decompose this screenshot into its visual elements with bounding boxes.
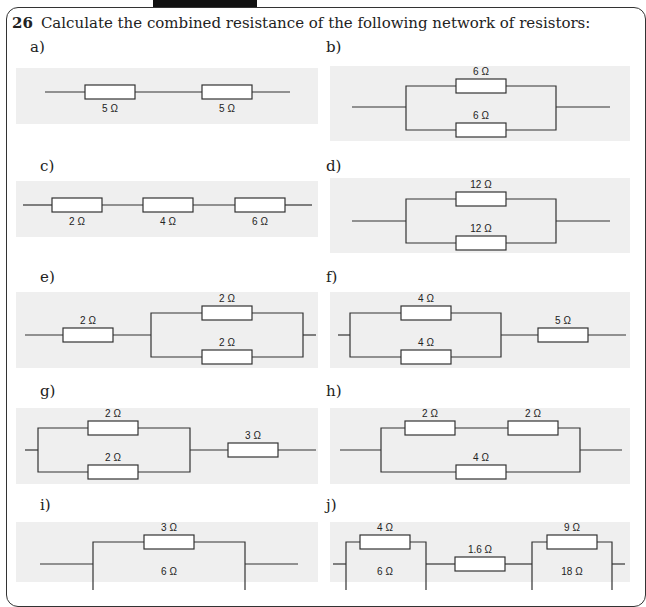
resistor-label: 6 Ω — [161, 566, 177, 577]
resistor-label: 12 Ω — [470, 179, 492, 190]
resistor-label: 3 Ω — [245, 430, 261, 441]
resistor-label: 2 Ω — [422, 408, 438, 419]
resistor — [538, 328, 588, 342]
circuit-e: 2 Ω 2 Ω 2 Ω — [25, 293, 316, 364]
resistor — [456, 236, 506, 250]
resistor — [456, 123, 506, 137]
resistor — [508, 421, 558, 435]
resistor-label: 4 Ω — [418, 337, 434, 348]
resistor-label: 2 Ω — [69, 216, 85, 227]
resistor — [547, 535, 597, 549]
resistor-label: 2 Ω — [525, 408, 541, 419]
resistor — [202, 306, 252, 320]
circuit-h: 2 Ω 2 Ω 4 Ω — [340, 408, 622, 479]
resistor-label: 4 Ω — [377, 522, 393, 533]
circuit-f: 4 Ω 4 Ω 5 Ω — [338, 293, 626, 364]
circuit-a: 5 Ω 5 Ω — [45, 85, 290, 114]
resistor — [88, 465, 138, 479]
resistor-label: 18 Ω — [561, 566, 583, 577]
resistor-label: 4 Ω — [473, 452, 489, 463]
resistor-label: 6 Ω — [377, 566, 393, 577]
resistor-label: 5 Ω — [102, 103, 118, 114]
resistor-label: 5 Ω — [555, 315, 571, 326]
resistor — [228, 443, 278, 457]
circuit-d: 12 Ω 12 Ω — [352, 179, 610, 250]
resistor-label: 1.6 Ω — [468, 544, 493, 555]
resistor — [202, 350, 252, 364]
resistor-label: 6 Ω — [252, 216, 268, 227]
resistor-label: 5 Ω — [219, 103, 235, 114]
resistor — [143, 198, 193, 212]
resistor — [85, 85, 135, 99]
resistor — [52, 198, 102, 212]
resistor-label: 2 Ω — [219, 293, 235, 304]
resistor-label: 3 Ω — [161, 522, 177, 533]
resistor — [235, 198, 285, 212]
resistor — [456, 192, 506, 206]
resistor — [63, 328, 113, 342]
resistor — [360, 535, 410, 549]
resistor — [405, 421, 455, 435]
resistor-label: 9 Ω — [564, 522, 580, 533]
resistor-label: 2 Ω — [219, 337, 235, 348]
resistor-label: 2 Ω — [80, 315, 96, 326]
resistor-label: 6 Ω — [473, 110, 489, 121]
resistor — [202, 85, 252, 99]
circuit-g: 2 Ω 2 Ω 3 Ω — [25, 408, 316, 479]
resistor — [456, 79, 506, 93]
resistor — [144, 535, 194, 549]
circuit-c: 2 Ω 4 Ω 6 Ω — [23, 198, 312, 227]
resistor-label: 6 Ω — [473, 66, 489, 77]
resistor — [88, 421, 138, 435]
resistor-label: 4 Ω — [418, 293, 434, 304]
resistor — [401, 350, 451, 364]
resistor-label: 2 Ω — [105, 408, 121, 419]
resistor — [455, 557, 505, 571]
resistor-label: 2 Ω — [105, 452, 121, 463]
resistor-label: 12 Ω — [470, 223, 492, 234]
circuit-b: 6 Ω 6 Ω — [352, 66, 610, 137]
resistor — [456, 465, 506, 479]
resistor — [401, 306, 451, 320]
resistor-label: 4 Ω — [160, 216, 176, 227]
